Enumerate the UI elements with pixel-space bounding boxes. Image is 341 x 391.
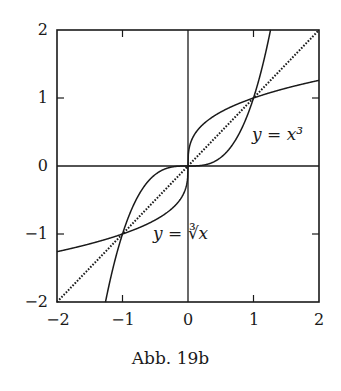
x-tick-label: 0 [168,310,208,329]
annotation-x-cubed: y = x³ [252,124,303,144]
function-plot [0,0,341,391]
annotation-cube-root: y = ∛x [153,223,208,243]
y-tick-label: −2 [8,292,48,311]
x-tick-label: 1 [234,310,274,329]
figure-caption: Abb. 19b [0,348,341,368]
x-tick-label: −2 [38,310,78,329]
x-tick-label: −1 [103,310,143,329]
x-tick-label: 2 [299,310,339,329]
y-tick-label: 0 [8,156,48,175]
y-tick-label: 2 [8,20,48,39]
y-tick-label: 1 [8,88,48,107]
y-tick-label: −1 [8,224,48,243]
